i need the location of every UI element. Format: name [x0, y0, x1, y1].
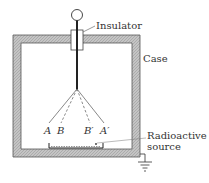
leaf-a [49, 89, 77, 123]
radioactive-source [49, 143, 103, 148]
label-b-prime: B′ [83, 125, 94, 136]
knob [72, 10, 83, 21]
label-a: A [43, 125, 51, 136]
leaf-a-prime [77, 89, 104, 123]
insulator-leader [83, 26, 95, 32]
electroscope-diagram: A B B′ A′ Insulator Case Radioactive sou… [0, 0, 209, 183]
label-source: source [147, 141, 181, 152]
leaf-b-prime [77, 89, 90, 123]
label-b: B [56, 125, 64, 136]
label-insulator: Insulator [96, 20, 142, 31]
label-case: Case [143, 53, 168, 64]
label-radioactive: Radioactive [147, 130, 207, 141]
label-a-prime: A′ [99, 125, 110, 136]
